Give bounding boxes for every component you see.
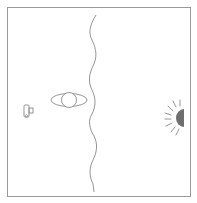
eye-icon bbox=[51, 93, 87, 108]
wavy-boundary-line bbox=[89, 15, 96, 192]
camera-icon bbox=[24, 105, 33, 117]
sun-icon bbox=[165, 100, 184, 135]
diagram-canvas bbox=[0, 0, 197, 203]
